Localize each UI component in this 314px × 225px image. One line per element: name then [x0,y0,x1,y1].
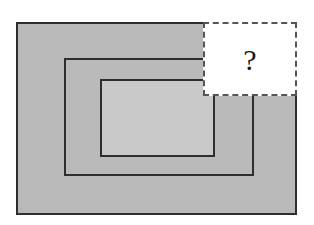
mystery-box: ? [203,22,297,96]
inner-rectangle [100,79,215,157]
question-mark: ? [243,45,256,75]
